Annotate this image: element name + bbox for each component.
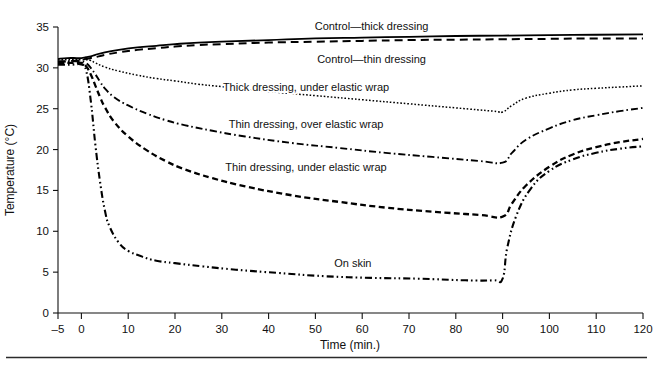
x-axis-ticks: –50102030405060708090100110120: [52, 313, 653, 335]
y-tick-label: 5: [43, 266, 49, 278]
figure-container: 05101520253035 –501020304050607080901001…: [0, 0, 653, 366]
x-tick-label: 90: [496, 323, 509, 335]
x-axis-title: Time (min.): [320, 338, 380, 352]
x-tick-label: 50: [309, 323, 322, 335]
x-tick-label: 20: [169, 323, 182, 335]
x-tick-label: 110: [587, 323, 605, 335]
data-curves: [58, 34, 643, 282]
series-curve-3: [58, 61, 643, 163]
series-label-3: Thin dressing, over elastic wrap: [229, 118, 384, 130]
series-label-0: Control—thick dressing: [315, 20, 429, 32]
series-curve-5: [58, 64, 643, 282]
series-label-2: Thick dressing, under elastic wrap: [223, 81, 389, 93]
y-tick-label: 15: [36, 184, 49, 196]
x-tick-label: 0: [78, 323, 84, 335]
x-tick-label: 40: [262, 323, 275, 335]
y-axis-title: Temperature (°C): [3, 124, 17, 216]
y-axis-ticks: 05101520253035: [36, 21, 58, 319]
y-tick-label: 35: [36, 21, 49, 33]
temperature-vs-time-chart: 05101520253035 –501020304050607080901001…: [0, 0, 653, 366]
x-tick-label: –5: [52, 323, 65, 335]
x-tick-label: 70: [403, 323, 416, 335]
x-tick-label: 120: [633, 323, 652, 335]
series-inline-labels: Control—thick dressingControl—thick dres…: [223, 20, 429, 269]
y-tick-label: 10: [36, 225, 49, 237]
series-label-1: Control—thin dressing: [317, 53, 426, 65]
x-tick-label: 60: [356, 323, 369, 335]
series-label-5: On skin: [334, 257, 371, 269]
x-tick-label: 80: [449, 323, 462, 335]
y-tick-label: 25: [36, 103, 49, 115]
x-tick-label: 10: [122, 323, 135, 335]
y-tick-label: 30: [36, 62, 49, 74]
series-label-4: Thin dressing, under elastic wrap: [225, 161, 386, 173]
y-tick-label: 0: [43, 307, 49, 319]
y-tick-label: 20: [36, 144, 49, 156]
x-tick-label: 30: [215, 323, 228, 335]
x-tick-label: 100: [540, 323, 559, 335]
